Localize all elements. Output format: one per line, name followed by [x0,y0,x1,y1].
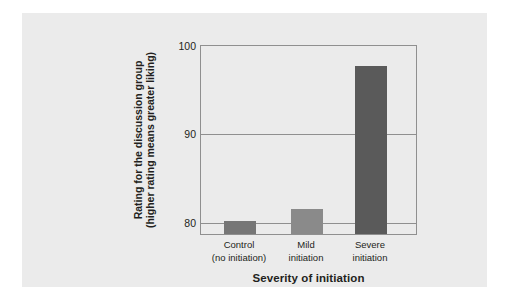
x-tick-label-control-line-2: (no initiation) [212,252,266,263]
y-axis-tick-labels: 100 90 80 [152,13,196,300]
x-tick-label-severe: Severe initiation [325,239,415,264]
x-tick-label-mild-line-1: Mild [297,239,314,250]
x-tick-label-severe-line-1: Severe [355,239,385,250]
plot-area [200,45,417,235]
x-tick-label-mild-line-2: initiation [289,252,324,263]
x-tick-label-severe-line-2: initiation [353,252,388,263]
chart-panel: Rating for the discussion group (higher … [22,13,487,287]
y-tick-label-100: 100 [178,41,196,52]
figure: Rating for the discussion group (higher … [0,0,512,300]
y-tick-label-90: 90 [184,129,196,140]
x-axis-tick-labels: Control (no initiation) Mild initiation … [200,239,417,271]
y-axis-title-line-1: Rating for the discussion group [132,61,144,220]
x-axis-title: Severity of initiation [200,272,417,284]
y-tick-label-80: 80 [184,218,196,229]
bar-mild-initiation [291,209,323,234]
bar-severe-initiation [355,66,387,234]
bar-control [224,221,256,234]
x-tick-label-control-line-1: Control [224,239,255,250]
